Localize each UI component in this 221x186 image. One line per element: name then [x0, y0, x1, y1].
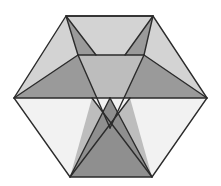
- figure-root: [0, 0, 221, 186]
- polyhedron-diagram: [0, 0, 221, 186]
